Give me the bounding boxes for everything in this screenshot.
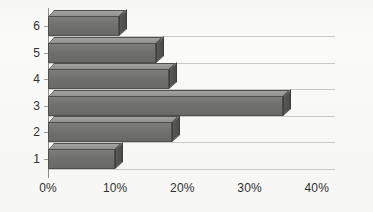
bar[interactable]	[48, 143, 123, 163]
category-tick-mark	[44, 26, 48, 27]
category-tick-mark	[44, 106, 48, 107]
value-tick-label: 0%	[22, 181, 74, 195]
bar[interactable]	[48, 37, 164, 57]
bar[interactable]	[48, 90, 291, 110]
bar-chart: 654321 0%10%20%30%40%	[0, 0, 373, 212]
bar-front-face	[48, 149, 115, 169]
page-background: 654321 0%10%20%30%40%	[0, 0, 373, 212]
category-tick-mark	[44, 132, 48, 133]
category-label: 5	[18, 46, 40, 60]
bar-front-face	[48, 16, 119, 36]
category-label: 2	[18, 125, 40, 139]
category-label: 4	[18, 72, 40, 86]
category-label: 3	[18, 99, 40, 113]
category-label: 1	[18, 152, 40, 166]
category-tick-mark	[44, 159, 48, 160]
bar-front-face	[48, 43, 156, 63]
bar[interactable]	[48, 63, 177, 83]
bar-front-face	[48, 122, 172, 142]
value-tick-label: 30%	[224, 181, 276, 195]
gridline	[48, 169, 335, 170]
category-label: 6	[18, 19, 40, 33]
bar[interactable]	[48, 116, 180, 136]
bar-front-face	[48, 96, 283, 116]
bar-front-face	[48, 69, 169, 89]
bar[interactable]	[48, 10, 127, 30]
value-tick-label: 40%	[291, 181, 343, 195]
value-tick-label: 20%	[156, 181, 208, 195]
value-tick-label: 10%	[89, 181, 141, 195]
category-tick-mark	[44, 53, 48, 54]
category-tick-mark	[44, 79, 48, 80]
